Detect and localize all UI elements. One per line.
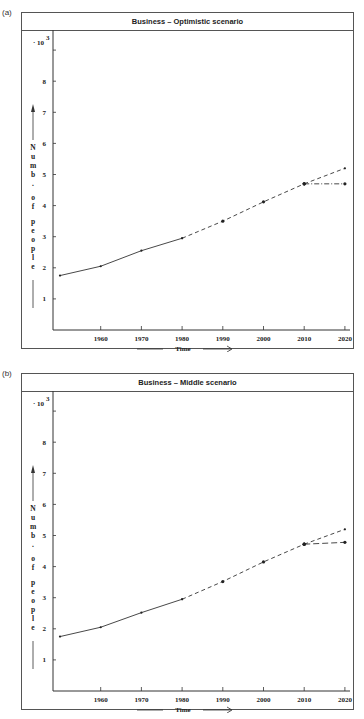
y-multiplier-label: · 10 <box>33 400 45 408</box>
x-tick-label: 1960 <box>94 696 109 704</box>
data-point <box>262 560 265 563</box>
series-line-historical <box>60 238 182 275</box>
data-point <box>59 635 61 637</box>
y-tick-label: 5 <box>43 532 47 540</box>
series-line-historical <box>60 599 182 636</box>
y-axis-label-char: p <box>31 217 35 226</box>
data-point <box>343 182 346 185</box>
data-point <box>344 528 346 530</box>
y-axis-label-char: e <box>31 262 35 271</box>
chart-plot: · 10312345678196019701980199020002010202… <box>0 0 364 352</box>
data-point <box>100 626 102 628</box>
y-axis-label-char: o <box>31 193 35 202</box>
data-point <box>221 580 224 583</box>
x-tick-label: 1990 <box>216 335 231 343</box>
y-tick-label: 5 <box>43 171 47 179</box>
data-point <box>303 182 306 185</box>
y-tick-label: 6 <box>43 501 47 509</box>
y-tick-label: 8 <box>43 78 47 86</box>
y-tick-label: 3 <box>43 233 47 241</box>
y-axis-label-char: e <box>31 587 35 596</box>
x-tick-label: 2010 <box>297 335 312 343</box>
x-axis-label: Time <box>175 345 190 352</box>
x-tick-label: 2020 <box>338 335 353 343</box>
x-tick-label: 1970 <box>134 696 149 704</box>
y-tick-label: 3 <box>43 594 47 602</box>
y-axis-label-char: N <box>30 504 36 513</box>
y-tick-label: 7 <box>43 470 47 478</box>
data-point <box>221 220 224 223</box>
y-axis-label-char: . <box>32 179 34 188</box>
y-tick-label: 1 <box>43 295 47 303</box>
series-line-projection <box>182 544 304 599</box>
y-tick-label: 1 <box>43 656 47 664</box>
x-tick-label: 2000 <box>257 335 272 343</box>
y-multiplier-exponent: 3 <box>46 34 50 42</box>
data-point <box>344 167 346 169</box>
y-tick-label: 8 <box>43 439 47 447</box>
y-axis-label-char: o <box>31 596 35 605</box>
arrow-head-icon <box>31 104 35 112</box>
data-point <box>303 543 306 546</box>
data-point <box>181 598 183 600</box>
x-tick-label: 2000 <box>257 696 272 704</box>
y-axis-label-char: l <box>32 253 34 262</box>
y-axis-label-char: b <box>31 531 35 540</box>
y-tick-label: 2 <box>43 625 47 633</box>
series-line-projection <box>182 184 304 238</box>
chart-plot: · 10312345678196019701980199020002010202… <box>0 361 364 713</box>
y-axis-label-char: e <box>31 623 35 632</box>
y-axis-label-char: o <box>31 235 35 244</box>
y-tick-label: 7 <box>43 109 47 117</box>
series-line-upper-scenario <box>304 168 345 184</box>
y-axis-label-char: e <box>31 226 35 235</box>
y-axis-label-char: o <box>31 554 35 563</box>
y-axis-label-char: p <box>31 605 35 614</box>
data-point <box>140 250 142 252</box>
y-multiplier-exponent: 3 <box>46 395 50 403</box>
x-tick-label: 2010 <box>297 696 312 704</box>
x-tick-label: 1970 <box>134 335 149 343</box>
series-line-upper-scenario <box>304 529 345 544</box>
chart-panel-middle: (b) Business – Middle scenario · 1031234… <box>0 361 364 713</box>
series-line-lower-scenario <box>304 542 345 544</box>
data-point <box>59 274 61 276</box>
data-point <box>100 265 102 267</box>
y-tick-label: 4 <box>43 563 47 571</box>
y-axis-label-char: f <box>32 202 35 211</box>
y-axis-label-char: p <box>31 578 35 587</box>
y-tick-label: 4 <box>43 202 47 210</box>
y-multiplier-label: · 10 <box>33 39 45 47</box>
x-tick-label: 1990 <box>216 696 231 704</box>
x-axis-label: Time <box>175 706 190 713</box>
x-tick-label: 1980 <box>175 335 190 343</box>
y-axis-label-char: u <box>31 513 35 522</box>
data-point <box>140 612 142 614</box>
y-axis-label-char: b <box>31 170 35 179</box>
y-tick-label: 2 <box>43 264 47 272</box>
y-axis-label-char: f <box>32 563 35 572</box>
x-tick-label: 2020 <box>338 696 353 704</box>
y-axis-label-char: . <box>32 540 34 549</box>
x-tick-label: 1980 <box>175 696 190 704</box>
data-point <box>181 237 183 239</box>
x-tick-label: 1960 <box>94 335 109 343</box>
arrow-head-icon <box>31 465 35 473</box>
y-axis-label-char: p <box>31 244 35 253</box>
data-point <box>262 200 265 203</box>
data-point <box>343 541 346 544</box>
y-axis-label-char: l <box>32 614 34 623</box>
chart-panel-optimistic: (a) Business – Optimistic scenario · 103… <box>0 0 364 352</box>
y-axis-label-char: m <box>30 161 37 170</box>
y-axis-label-char: m <box>30 522 37 531</box>
y-axis-label-char: N <box>30 143 36 152</box>
y-tick-label: 6 <box>43 140 47 148</box>
y-axis-label-char: u <box>31 152 35 161</box>
